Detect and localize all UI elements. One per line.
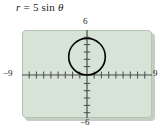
equation-label: r=5sinθ bbox=[16, 1, 64, 13]
equation-function-sin: sin bbox=[42, 1, 55, 13]
plot-area bbox=[22, 30, 152, 118]
x-axis-max-label: 9 bbox=[153, 68, 158, 78]
equation-coefficient: 5 bbox=[33, 1, 39, 13]
equation-variable-r: r bbox=[16, 1, 20, 13]
equation-variable-theta: θ bbox=[58, 1, 64, 13]
y-axis-min-label: −6 bbox=[80, 117, 90, 127]
polar-graph-figure: r=5sinθ bbox=[0, 0, 166, 131]
x-axis-min-label: −9 bbox=[3, 68, 13, 78]
y-axis-max-label: 6 bbox=[83, 16, 88, 26]
plot-canvas bbox=[22, 30, 152, 118]
equation-equals-sign: = bbox=[23, 1, 29, 13]
y-axis-group bbox=[84, 30, 90, 118]
